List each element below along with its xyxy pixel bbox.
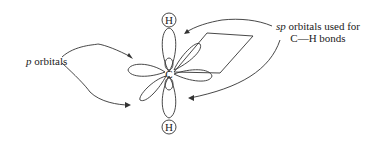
sp-orbitals-label: sp orbitals used for C—H bonds bbox=[272, 20, 364, 44]
p-orbitals-label: p orbitals bbox=[26, 55, 67, 67]
arrowhead-sp-upper bbox=[184, 29, 190, 34]
p-orbital-left-upper bbox=[128, 64, 165, 76]
sp-orbitals-rest: orbitals used for bbox=[286, 20, 360, 32]
sp-orbital-top bbox=[162, 28, 176, 72]
sp-orbitals-line1: sp orbitals used for bbox=[272, 20, 364, 32]
arrowhead-sp-lower bbox=[188, 95, 194, 101]
hydrogen-top-label: H bbox=[165, 14, 173, 26]
carbon-atom-label: C bbox=[165, 68, 172, 80]
arrow-sp-upper bbox=[185, 19, 272, 33]
arrow-p-lower bbox=[62, 63, 129, 105]
sp-orbital-bottom bbox=[162, 76, 176, 118]
arrow-sp-lower bbox=[190, 40, 280, 98]
p-orbitals-rest: orbitals bbox=[32, 55, 68, 67]
arrowhead-p-upper bbox=[127, 53, 133, 59]
hydrogen-bottom-label: H bbox=[165, 121, 173, 133]
plane-outline bbox=[174, 33, 253, 73]
sp-italic: sp bbox=[276, 20, 286, 32]
arrow-p-upper bbox=[62, 44, 131, 57]
arrowhead-p-lower bbox=[125, 102, 131, 108]
sp-orbitals-line2: C—H bonds bbox=[272, 32, 364, 44]
p-orbital-right-lower bbox=[174, 70, 212, 81]
